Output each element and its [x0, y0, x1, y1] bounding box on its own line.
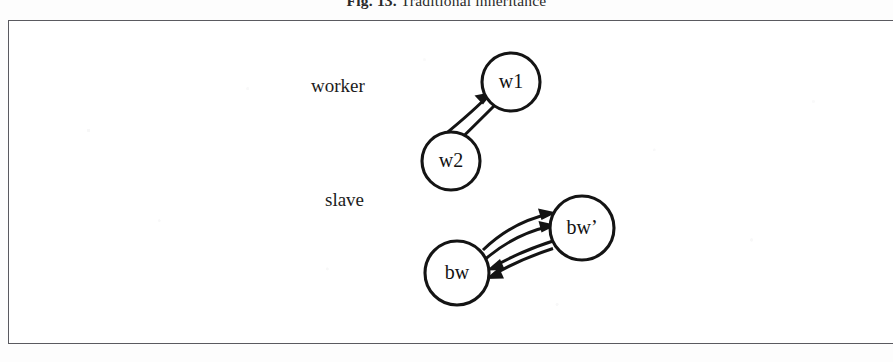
- inheritance-graph: w1 w2 bw bw’: [0, 0, 893, 362]
- node-bw-prime-label: bw’: [566, 216, 597, 238]
- edge-group-slave: [483, 209, 557, 280]
- node-w1-label: w1: [499, 70, 523, 92]
- node-bw[interactable]: bw: [425, 241, 489, 305]
- node-w1[interactable]: w1: [482, 53, 540, 111]
- node-w2[interactable]: w2: [422, 132, 480, 190]
- node-bw-prime[interactable]: bw’: [550, 196, 614, 260]
- node-w2-label: w2: [439, 149, 463, 171]
- edge-bwp-to-bw-1: [487, 240, 557, 271]
- node-bw-label: bw: [445, 261, 470, 283]
